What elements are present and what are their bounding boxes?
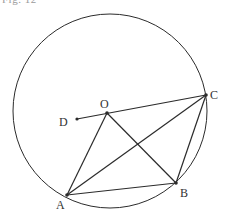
point-d <box>75 117 78 120</box>
segment-oa <box>67 113 107 195</box>
labels-group: OCABD <box>56 88 218 211</box>
diagram-canvas: OCABD <box>0 0 225 211</box>
segments-group <box>67 95 206 195</box>
label-d: D <box>59 115 68 129</box>
segment-dc <box>77 95 206 119</box>
point-b <box>174 181 178 185</box>
point-a <box>65 193 69 197</box>
segment-ab <box>67 183 176 195</box>
label-o: O <box>100 97 109 111</box>
label-b: B <box>180 186 188 200</box>
segment-ac <box>67 95 206 195</box>
geometry-figure: Fig. 12 OCABD <box>0 0 225 211</box>
label-a: A <box>56 198 65 211</box>
figure-caption-fragment: Fig. 12 <box>2 0 37 5</box>
label-c: C <box>210 88 218 102</box>
point-o <box>105 111 109 115</box>
point-c <box>204 93 208 97</box>
segment-bc <box>176 95 206 183</box>
